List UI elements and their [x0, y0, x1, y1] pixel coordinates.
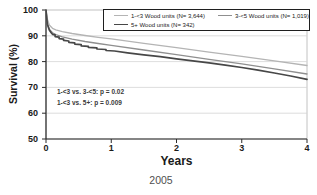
legend-line-swatch [114, 24, 128, 25]
x-axis-title: Years [46, 154, 307, 168]
legend-label: 3-<5 Wood units (N= 1,019) [235, 13, 309, 19]
y-tick-label: 70 [0, 82, 38, 93]
legend-box: 1-<3 Wood units (N= 3,644) 3-<5 Wood uni… [103, 9, 310, 31]
legend-line-swatch [114, 15, 128, 16]
y-tick-label: 100 [0, 5, 38, 16]
y-tick-label: 90 [0, 31, 38, 42]
legend-item-5plus-wood-units: 5+ Wood units (N= 342) [114, 22, 195, 28]
pvalue-annotation-1: 1-<3 vs. 3-<5: p = 0.02 [57, 88, 124, 95]
y-tick-label: 80 [0, 57, 38, 68]
x-tick-label: 2 [167, 143, 187, 153]
survival-chart-figure: Survival (%) 1-<3 Wood units (N= 3,644) … [0, 0, 317, 195]
legend-label: 5+ Wood units (N= 342) [131, 22, 195, 28]
pvalue-annotation-2: 1-<3 vs. 5+: p = 0.009 [57, 99, 122, 106]
y-tick-label: 50 [0, 134, 38, 145]
x-tick-label: 3 [232, 143, 252, 153]
legend-item-1-3-wood-units: 1-<3 Wood units (N= 3,644) [114, 13, 205, 19]
figure-caption: 2005 [46, 174, 276, 186]
x-tick-label: 4 [297, 143, 317, 153]
x-tick-label: 1 [101, 143, 121, 153]
y-tick-label: 60 [0, 108, 38, 119]
legend-label: 1-<3 Wood units (N= 3,644) [131, 13, 205, 19]
legend-item-3-5-wood-units: 3-<5 Wood units (N= 1,019) [218, 13, 309, 19]
legend-line-swatch [218, 15, 232, 16]
x-tick-label: 0 [36, 143, 56, 153]
